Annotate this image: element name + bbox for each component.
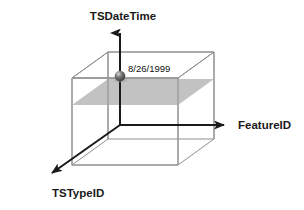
tstypeid-axis-label: TSTypeID: [52, 187, 104, 199]
marker-sphere: [115, 71, 126, 82]
tstypeid-axis-line: [52, 125, 120, 173]
cube-depth-edge-front-bottom-right: [178, 139, 214, 165]
cube-diagram-svg: TSDateTime FeatureID TSTypeID 8/26/1999: [0, 0, 304, 210]
cube-top-depth-edge-left: [72, 52, 108, 78]
cube-top-depth-edge-right: [178, 52, 214, 78]
time-slice-plane: [72, 79, 214, 105]
figure-container: TSDateTime FeatureID TSTypeID 8/26/1999: [0, 0, 304, 210]
cube-depth-edge-front-bottom-left: [72, 139, 108, 165]
tsdatetime-axis-label: TSDateTime: [90, 10, 156, 22]
time-slice-marker-label: 8/26/1999: [128, 63, 170, 74]
featureid-axis-label: FeatureID: [238, 119, 291, 131]
slice-plane-surface: [72, 79, 214, 105]
time-slice-marker[interactable]: [114, 71, 127, 83]
